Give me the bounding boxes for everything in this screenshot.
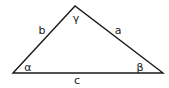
angle-alpha-label: α (24, 62, 31, 73)
angle-gamma-label: γ (73, 13, 80, 24)
side-c-label: c (74, 75, 80, 86)
angle-beta-label: β (136, 62, 143, 73)
triangle-figure (0, 0, 169, 88)
side-b-label: b (39, 25, 46, 36)
side-a-label: a (115, 25, 122, 36)
